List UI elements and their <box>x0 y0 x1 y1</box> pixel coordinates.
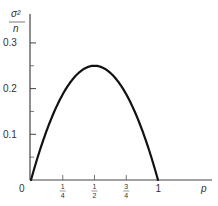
x-ticks: 1412341 <box>60 175 162 199</box>
x-tick-denominator: 4 <box>61 192 65 199</box>
x-tick-numerator: 1 <box>93 183 97 190</box>
origin-label: 0 <box>19 183 25 194</box>
data-curve <box>31 66 158 180</box>
x-tick-numerator: 3 <box>124 183 128 190</box>
x-tick-denominator: 2 <box>93 192 97 199</box>
y-axis-label: σ² n <box>9 8 25 34</box>
x-tick-numerator: 1 <box>61 183 65 190</box>
x-axis-label: p <box>200 183 207 194</box>
x-tick-denominator: 4 <box>124 192 128 199</box>
y-label-denominator: n <box>13 23 19 34</box>
axes <box>30 14 212 180</box>
y-tick-label: 0.3 <box>3 37 17 48</box>
x-tick-label: 1 <box>156 183 162 194</box>
chart: 0.10.20.3 1412341 σ² n p 0 <box>0 0 218 206</box>
y-ticks: 0.10.20.3 <box>3 37 36 157</box>
y-label-numerator: σ² <box>11 8 21 19</box>
y-tick-label: 0.1 <box>3 129 17 140</box>
y-tick-label: 0.2 <box>3 83 17 94</box>
